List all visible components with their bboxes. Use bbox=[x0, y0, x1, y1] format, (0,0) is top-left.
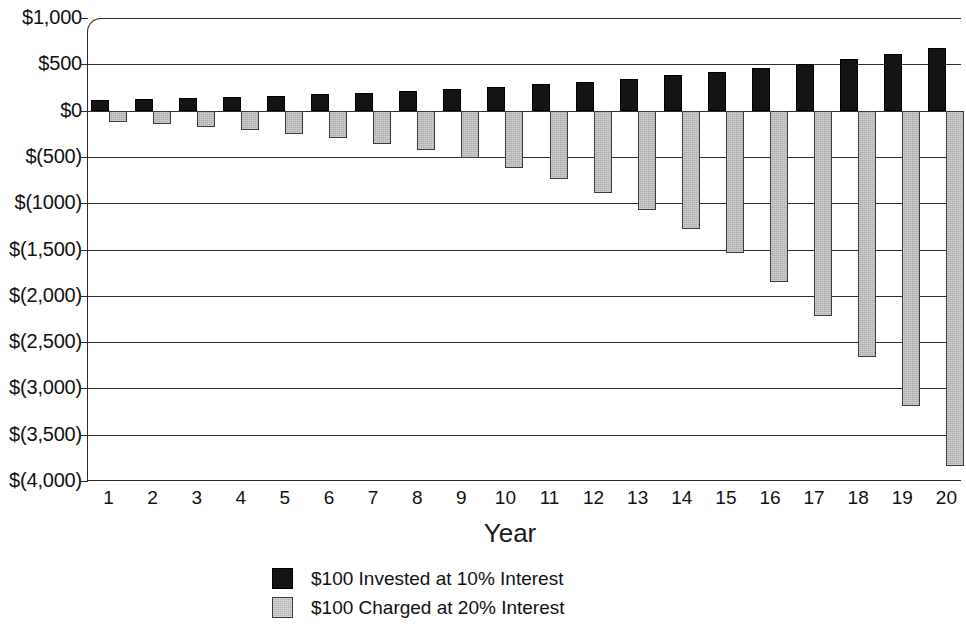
x-axis-tick-label: 2 bbox=[133, 487, 173, 509]
x-axis-tick-label: 4 bbox=[221, 487, 261, 509]
bar-charged bbox=[153, 111, 171, 124]
y-axis-tick-mark bbox=[80, 64, 88, 65]
bar-charged bbox=[858, 111, 876, 358]
bar-invested bbox=[311, 94, 329, 110]
y-axis-tick-label: $(1000) bbox=[4, 192, 82, 212]
bar-invested bbox=[884, 54, 902, 111]
y-axis-tick-label: $500 bbox=[4, 53, 82, 73]
bar-invested bbox=[708, 72, 726, 111]
bar-charged bbox=[417, 111, 435, 151]
x-axis-tick-label: 15 bbox=[706, 487, 746, 509]
y-axis-tick-label: $(2,500) bbox=[4, 331, 82, 351]
y-axis-tick-mark bbox=[80, 388, 88, 389]
bar-invested bbox=[840, 59, 858, 110]
legend-label-charged: $100 Charged at 20% Interest bbox=[311, 597, 565, 619]
x-axis-label-group: 1234567891011121314151617181920 bbox=[0, 487, 961, 513]
y-axis-tick-mark bbox=[80, 18, 88, 19]
bar-invested bbox=[223, 97, 241, 111]
gridline bbox=[87, 435, 961, 436]
gridline bbox=[87, 342, 961, 343]
bar-invested bbox=[487, 87, 505, 111]
bar-invested bbox=[620, 79, 638, 111]
y-axis-tick-label: $0 bbox=[4, 100, 82, 120]
gridline bbox=[87, 64, 961, 65]
bar-charged bbox=[197, 111, 215, 127]
plot-area bbox=[87, 18, 961, 481]
bar-charged bbox=[682, 111, 700, 230]
bar-invested bbox=[576, 82, 594, 111]
y-axis-tick-mark bbox=[80, 435, 88, 436]
legend-swatch-black-square bbox=[272, 568, 293, 589]
bar-invested bbox=[267, 96, 285, 111]
bar-charged bbox=[814, 111, 832, 316]
gridline bbox=[87, 388, 961, 389]
bar-charged bbox=[505, 111, 523, 168]
bar-charged bbox=[638, 111, 656, 210]
x-axis-tick-label: 6 bbox=[309, 487, 349, 509]
y-axis-tick-mark bbox=[80, 203, 88, 204]
bar-charged bbox=[109, 111, 127, 122]
bar-invested bbox=[355, 93, 373, 111]
y-axis-tick-label: $(1,500) bbox=[4, 239, 82, 259]
bar-charged bbox=[285, 111, 303, 134]
bar-charged bbox=[550, 111, 568, 180]
bar-charged bbox=[461, 111, 479, 159]
y-axis-tick-mark bbox=[80, 296, 88, 297]
bar-charged bbox=[946, 111, 964, 466]
y-axis-tick-mark bbox=[80, 481, 88, 482]
bar-invested bbox=[179, 98, 197, 110]
bar-charged bbox=[726, 111, 744, 254]
legend-item-charged: $100 Charged at 20% Interest bbox=[272, 593, 752, 622]
bar-invested bbox=[443, 89, 461, 111]
bar-charged bbox=[902, 111, 920, 407]
bar-charged bbox=[241, 111, 259, 130]
bar-invested bbox=[91, 100, 109, 110]
y-axis-label-group: $1,000$500$0$(500)$(1000)$(1,500)$(2,000… bbox=[0, 0, 82, 500]
x-axis-tick-label: 20 bbox=[926, 487, 966, 509]
y-axis-tick-label: $(2,000) bbox=[4, 285, 82, 305]
legend-label-invested: $100 Invested at 10% Interest bbox=[311, 568, 563, 590]
x-axis-tick-label: 19 bbox=[882, 487, 922, 509]
x-axis-tick-label: 12 bbox=[574, 487, 614, 509]
x-axis-tick-label: 11 bbox=[530, 487, 570, 509]
bar-invested bbox=[796, 64, 814, 111]
bar-invested bbox=[532, 84, 550, 110]
y-axis-tick-label: $(500) bbox=[4, 146, 82, 166]
x-axis-tick-label: 14 bbox=[662, 487, 702, 509]
x-axis-tick-label: 10 bbox=[485, 487, 525, 509]
chart-legend: $100 Invested at 10% Interest $100 Charg… bbox=[272, 564, 752, 622]
bar-invested bbox=[928, 48, 946, 110]
x-axis-tick-label: 17 bbox=[794, 487, 834, 509]
x-axis-tick-label: 16 bbox=[750, 487, 790, 509]
bar-invested bbox=[399, 91, 417, 111]
x-axis-tick-label: 18 bbox=[838, 487, 878, 509]
x-axis-tick-label: 7 bbox=[353, 487, 393, 509]
x-axis-tick-label: 3 bbox=[177, 487, 217, 509]
x-axis-tick-label: 9 bbox=[441, 487, 481, 509]
bar-invested bbox=[664, 75, 682, 110]
bar-charged bbox=[594, 111, 612, 194]
legend-swatch-gray-square bbox=[272, 597, 293, 618]
bar-charged bbox=[770, 111, 788, 282]
y-axis-tick-label: $1,000 bbox=[4, 7, 82, 27]
x-axis-tick-label: 5 bbox=[265, 487, 305, 509]
x-axis-title: Year bbox=[430, 518, 590, 548]
y-axis-tick-mark bbox=[80, 157, 88, 158]
y-axis-tick-mark bbox=[80, 111, 88, 112]
y-axis-tick-mark bbox=[80, 342, 88, 343]
x-axis-tick-label: 13 bbox=[618, 487, 658, 509]
x-axis-tick-label: 1 bbox=[89, 487, 129, 509]
y-axis-tick-label: $(3,000) bbox=[4, 377, 82, 397]
x-axis-tick-label: 8 bbox=[397, 487, 437, 509]
bar-invested bbox=[752, 68, 770, 111]
bar-invested bbox=[135, 99, 153, 110]
y-axis-tick-label: $(3,500) bbox=[4, 424, 82, 444]
legend-item-invested: $100 Invested at 10% Interest bbox=[272, 564, 752, 593]
bar-charged bbox=[329, 111, 347, 139]
bar-charged bbox=[373, 111, 391, 144]
y-axis-tick-mark bbox=[80, 250, 88, 251]
